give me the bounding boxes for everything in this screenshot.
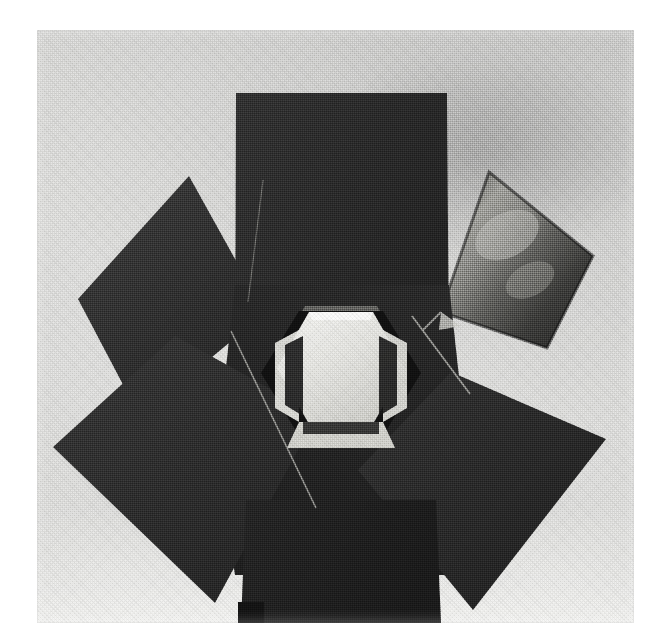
photographic-plate: Black and white photograph of a geometri… bbox=[37, 30, 634, 623]
base-foot bbox=[238, 602, 264, 623]
page-root: Black and white photograph of a geometri… bbox=[0, 0, 667, 636]
column-base bbox=[238, 500, 441, 623]
sculpture bbox=[37, 30, 634, 623]
panel-upper-right bbox=[441, 172, 593, 348]
